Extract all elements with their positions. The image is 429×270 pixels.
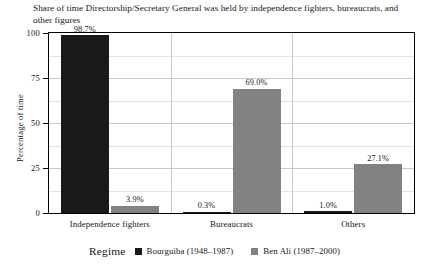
bar-value-label: 27.1% (354, 154, 402, 163)
bar-value-label: 0.3% (183, 201, 231, 210)
y-tick-label: 25 (0, 163, 40, 173)
bar-value-label: 69.0% (233, 78, 281, 87)
x-category-label: Independence fighters (49, 219, 171, 229)
legend-items: Bourguiba (1948–1987)Ben Ali (1987–2000) (135, 246, 340, 256)
legend-swatch-icon (251, 248, 258, 255)
x-category-label: Others (292, 219, 414, 229)
legend-label: Ben Ali (1987–2000) (263, 246, 340, 256)
y-tick-label: 75 (0, 73, 40, 83)
y-tick-label: 100 (0, 28, 40, 38)
legend-label: Bourguiba (1948–1987) (147, 246, 234, 256)
bar-value-label: 3.9% (111, 195, 159, 204)
legend-item[interactable]: Ben Ali (1987–2000) (251, 246, 340, 256)
bar (304, 211, 352, 213)
legend: Regime Bourguiba (1948–1987)Ben Ali (198… (0, 245, 429, 257)
figure: Share of time Directorship/Secretary Gen… (0, 0, 429, 270)
y-tick-label: 50 (0, 118, 40, 128)
bar (111, 206, 159, 213)
y-tick-label: 0 (0, 208, 40, 218)
bar-value-label: 1.0% (304, 201, 352, 210)
bar-value-label: 98.7% (61, 25, 109, 34)
bar (61, 35, 109, 213)
legend-item[interactable]: Bourguiba (1948–1987) (135, 246, 234, 256)
plot-area (48, 32, 415, 214)
chart-title: Share of time Directorship/Secretary Gen… (33, 2, 411, 27)
bar (233, 89, 281, 213)
bar (183, 212, 231, 213)
category-separator (292, 33, 293, 213)
legend-title: Regime (89, 245, 126, 257)
category-separator (171, 33, 172, 213)
legend-swatch-icon (135, 248, 142, 255)
bar (354, 164, 402, 213)
x-category-label: Bureaucrats (171, 219, 293, 229)
